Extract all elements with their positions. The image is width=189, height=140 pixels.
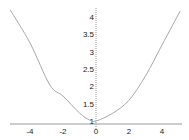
y-tick-label: 3 — [90, 48, 95, 57]
x-tick-labels: -4-2024 — [26, 127, 164, 136]
y-tick-labels: 11.522.533.54 — [83, 13, 95, 126]
x-tick-label: 0 — [94, 127, 99, 136]
data-curve — [10, 10, 180, 122]
axes — [10, 8, 182, 130]
chart-plot: -4-2024 11.522.533.54 — [0, 0, 189, 140]
y-tick-label: 4 — [90, 13, 95, 22]
x-tick-label: -2 — [59, 127, 67, 136]
x-tick-label: 2 — [127, 127, 132, 136]
y-tick-label: 2.5 — [83, 65, 95, 74]
y-tick-label: 2 — [90, 82, 95, 91]
x-tick-label: -4 — [26, 127, 34, 136]
x-tick-label: 4 — [160, 127, 165, 136]
y-tick-label: 3.5 — [83, 30, 95, 39]
y-tick-label: 1.5 — [83, 100, 95, 109]
